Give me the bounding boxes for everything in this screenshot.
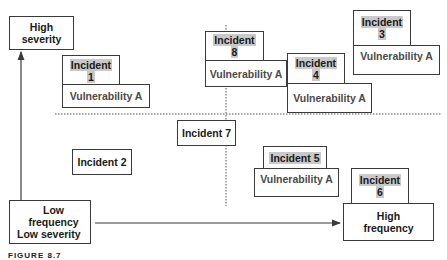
incident-6-number: 6 bbox=[376, 186, 384, 198]
vulnerability-text: Vulnerability A bbox=[360, 50, 433, 62]
frequency-text: frequency bbox=[363, 222, 413, 234]
high-severity-text: High severity bbox=[10, 21, 73, 45]
vulnerability-text: Vulnerability A bbox=[70, 90, 143, 102]
incident-2-box: Incident 2 bbox=[72, 149, 132, 175]
incident-8-box: Incident 8 bbox=[205, 31, 264, 61]
incident-4-vulnerability: Vulnerability A bbox=[287, 83, 372, 113]
incident-8-number: 8 bbox=[231, 46, 239, 58]
incident-5-vulnerability: Vulnerability A bbox=[254, 168, 339, 197]
incident-5-box: Incident 5 bbox=[263, 146, 327, 169]
incident-5-label: Incident 5 bbox=[269, 152, 320, 164]
incident-8-label: Incident bbox=[213, 34, 255, 46]
incident-3-label: Incident bbox=[361, 16, 403, 28]
low-severity-text: Low severity bbox=[17, 228, 81, 240]
vulnerability-text: Vulnerability A bbox=[293, 92, 366, 104]
vulnerability-text: Vulnerability A bbox=[260, 173, 333, 185]
origin-label: Low frequency Low severity bbox=[9, 200, 91, 244]
high-text: High bbox=[377, 210, 400, 222]
incident-3-vulnerability: Vulnerability A bbox=[353, 45, 440, 75]
incident-4-number: 4 bbox=[312, 69, 320, 81]
incident-1-number: 1 bbox=[87, 71, 95, 83]
incident-1-box: Incident 1 bbox=[62, 55, 120, 86]
incident-4-label: Incident bbox=[295, 57, 337, 69]
incident-3-number: 3 bbox=[378, 28, 386, 40]
low-frequency-text: Low frequency bbox=[17, 204, 90, 228]
high-severity-label: High severity bbox=[9, 16, 74, 50]
incident-7-label: Incident 7 bbox=[182, 127, 231, 139]
high-frequency-label: High frequency bbox=[343, 203, 434, 241]
figure-caption: FIGURE 8.7 bbox=[8, 251, 62, 260]
incident-7-box: Incident 7 bbox=[177, 120, 236, 146]
incident-8-vulnerability: Vulnerability A bbox=[205, 60, 287, 87]
incident-1-label: Incident bbox=[70, 59, 112, 71]
incident-4-box: Incident 4 bbox=[287, 53, 345, 84]
incident-3-box: Incident 3 bbox=[353, 10, 411, 46]
incident-2-label: Incident 2 bbox=[77, 156, 126, 168]
vulnerability-text: Vulnerability A bbox=[210, 68, 283, 80]
incident-6-box: Incident 6 bbox=[351, 168, 409, 204]
incident-6-label: Incident bbox=[359, 174, 401, 186]
incident-1-vulnerability: Vulnerability A bbox=[62, 84, 150, 108]
